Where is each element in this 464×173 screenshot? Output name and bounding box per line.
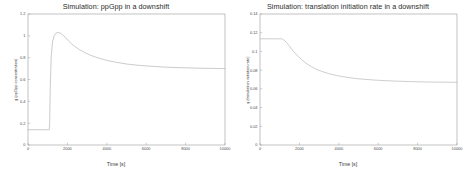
svg-text:4000: 4000	[102, 146, 111, 151]
svg-text:1: 1	[23, 33, 25, 38]
svg-text:0.06: 0.06	[250, 86, 258, 91]
svg-text:4000: 4000	[334, 146, 343, 151]
x-axis-label-right: Time [s]	[232, 161, 464, 167]
svg-text:0.4: 0.4	[20, 99, 26, 104]
svg-text:2000: 2000	[63, 146, 72, 151]
x-axis-label-left: Time [s]	[0, 161, 232, 167]
svg-text:0.1: 0.1	[252, 49, 257, 54]
svg-text:0.12: 0.12	[250, 30, 258, 35]
svg-text:8000: 8000	[413, 146, 422, 151]
svg-text:2000: 2000	[295, 146, 304, 151]
svg-text:0: 0	[255, 142, 258, 147]
svg-text:0.04: 0.04	[250, 105, 258, 110]
svg-text:0.6: 0.6	[20, 77, 25, 82]
svg-text:0.08: 0.08	[250, 68, 258, 73]
svg-text:0: 0	[23, 142, 26, 147]
svg-text:10000: 10000	[452, 146, 464, 151]
svg-text:0.02: 0.02	[250, 124, 258, 129]
svg-text:0.14: 0.14	[250, 11, 258, 16]
plot-area-left: 00.20.40.60.811.20200040006000800010000	[0, 0, 232, 173]
chart-panel-translation-rate: Simulation: translation initiation rate …	[232, 0, 464, 173]
svg-text:8000: 8000	[181, 146, 190, 151]
svg-text:1.2: 1.2	[20, 11, 25, 16]
svg-text:0.8: 0.8	[20, 55, 25, 60]
svg-text:6000: 6000	[142, 146, 151, 151]
chart-panel-ppgpp: Simulation: ppGpp in a downshift g (ppGp…	[0, 0, 232, 173]
svg-text:0: 0	[259, 146, 262, 151]
svg-text:0.2: 0.2	[20, 121, 25, 126]
svg-text:6000: 6000	[374, 146, 383, 151]
figure-container: Simulation: ppGpp in a downshift g (ppGp…	[0, 0, 464, 173]
svg-text:10000: 10000	[220, 146, 232, 151]
svg-text:0: 0	[27, 146, 30, 151]
plot-area-right: 00.020.040.060.080.10.120.14020004000600…	[232, 0, 464, 173]
